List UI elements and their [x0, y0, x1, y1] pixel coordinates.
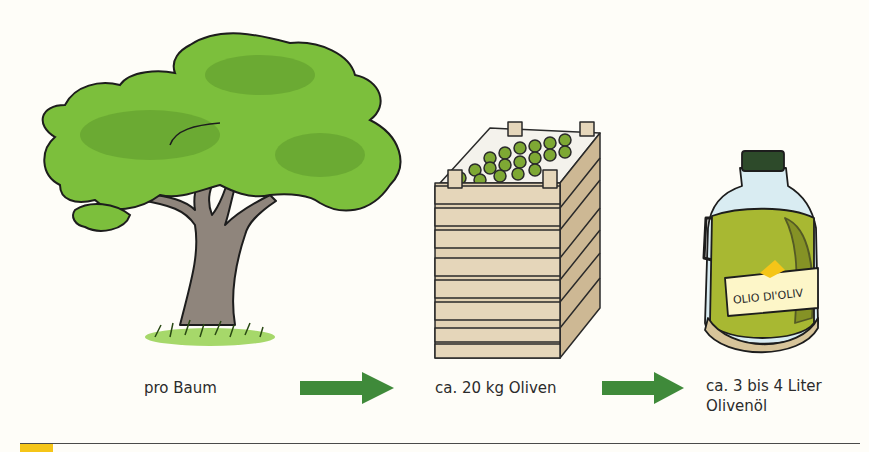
olive-tree-illustration [20, 25, 420, 360]
olive-oil-bottle-illustration: OLIO DI'OLIV [700, 148, 825, 360]
arrow-right-icon [300, 372, 395, 404]
arrow-right-icon [602, 372, 685, 404]
step-label-oil-line1: ca. 3 bis 4 Liter [706, 376, 822, 396]
bottom-rule [20, 443, 860, 444]
step-label-olives: ca. 20 kg Oliven [435, 378, 557, 398]
step-label-oil-line2: Olivenöl [706, 396, 822, 416]
step-label-tree: pro Baum [144, 378, 217, 398]
step-label-oil: ca. 3 bis 4 Liter Olivenöl [706, 376, 822, 416]
accent-tab [20, 444, 53, 452]
olive-crate-illustration [430, 118, 610, 363]
